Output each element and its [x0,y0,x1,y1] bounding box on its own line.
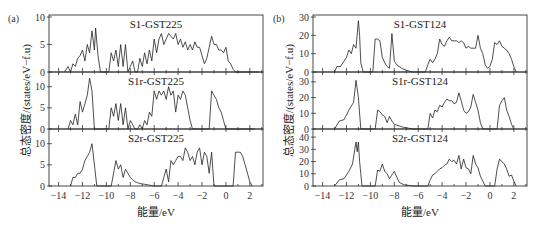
subplot-title: S1-GST225 [130,18,183,30]
x-axis-title: 能量/eV [137,205,175,218]
subplot-s1r-gst124: 0102030S1r-GST124 [299,72,527,135]
x-tick-label: −2 [461,190,472,201]
dos-curve [335,80,514,129]
x-tick-label: −12 [339,190,355,201]
y-tick-label: 10 [35,12,45,23]
x-axis-title: 能量/eV [401,205,439,218]
subplot-s2r-gst124: 010203040S2r-GST124 [299,129,527,192]
x-tick-label: 0 [223,190,228,201]
panel-label: (b) [273,13,285,25]
y-tick-label: 0 [40,181,45,192]
y-tick-label: 30 [299,76,309,87]
x-tick-label: 2 [247,190,252,201]
chart-panel-a: (a)总态密度/(states/eV−f.u)0510S1-GST2250510… [8,12,263,219]
subplot-s2r-gst225: 0510S2r-GST225 [35,129,263,192]
x-tick-label: −8 [125,190,136,201]
subplot-title: S2r-GST225 [128,132,185,144]
y-axis-title: 总态密度/(states/eV−f.u) [282,44,296,157]
y-tick-label: 0 [40,124,45,135]
y-tick-label: 20 [299,92,309,103]
y-tick-label: 0 [40,67,45,78]
x-tick-label: 2 [511,190,516,201]
y-axis-title: 总态密度/(states/eV−f.u) [19,44,33,157]
y-tick-label: 10 [35,81,45,92]
x-tick-label: 0 [487,190,492,201]
y-tick-label: 5 [40,159,45,170]
x-tick-label: −8 [389,190,400,201]
y-tick-label: 20 [299,30,309,41]
dos-curve [335,142,517,186]
y-tick-label: 20 [299,156,309,167]
x-tick-label: −2 [197,190,208,201]
subplot-s1-gst124: 0102030S1-GST124 [299,12,527,78]
x-tick-label: −6 [413,190,424,201]
dos-curve [71,144,253,186]
subplot-title: S2r-GST124 [392,132,449,144]
subplot-title: S1r-GST124 [392,75,449,87]
subplot-title: S1r-GST225 [128,75,185,87]
y-tick-label: 30 [299,144,309,155]
x-tick-label: −4 [173,190,184,201]
y-tick-label: 5 [40,39,45,50]
y-tick-label: 40 [299,132,309,143]
chart-panel-b: (b)总态密度/(states/eV−f.u)0102030S1-GST1240… [273,12,527,219]
x-tick-label: −4 [437,190,448,201]
y-tick-label: 10 [35,138,45,149]
y-tick-label: 30 [299,12,309,23]
subplot-s1-gst225: 0510S1-GST225 [35,12,263,78]
x-tick-label: −14 [51,190,67,201]
subplot-s1r-gst225: 0510S1r-GST225 [35,72,263,135]
dos-figure: (a)总态密度/(states/eV−f.u)0510S1-GST2250510… [0,0,534,228]
dos-curve [65,28,260,72]
x-tick-label: −12 [75,190,91,201]
x-tick-label: −6 [149,190,160,201]
subplot-title: S1-GST124 [394,18,447,30]
y-tick-label: 10 [299,108,309,119]
x-tick-label: −10 [363,190,379,201]
y-tick-label: 0 [304,181,309,192]
panel-label: (a) [8,13,19,25]
x-tick-label: −10 [99,190,115,201]
y-tick-label: 10 [299,48,309,59]
x-tick-label: −14 [315,190,331,201]
y-tick-label: 5 [40,102,45,113]
y-tick-label: 10 [299,168,309,179]
